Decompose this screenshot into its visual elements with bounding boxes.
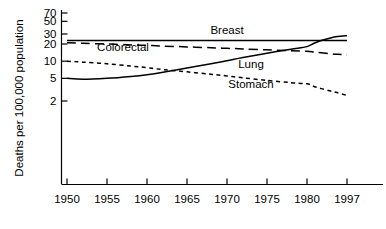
x-axis-ticks: 19501955196019651970197519801997 — [54, 179, 360, 206]
series-label-lung: Lung — [238, 58, 264, 70]
series-label-breast: Breast — [210, 24, 244, 36]
y-tick-label: 30 — [44, 28, 57, 40]
y-tick-label: 2 — [50, 95, 56, 107]
x-tick-label: 1975 — [254, 193, 280, 205]
x-tick-label: 1970 — [214, 193, 240, 205]
x-tick-label: 1955 — [94, 193, 120, 205]
series-label-colorectal: Colorectal — [97, 41, 149, 53]
axes — [62, 10, 384, 185]
x-tick-label: 1997 — [334, 193, 360, 205]
series-label-stomach: Stomach — [228, 78, 273, 90]
plot-area: 251020305070 195019551960196519701975198… — [0, 0, 386, 229]
x-tick-label: 1960 — [134, 193, 160, 205]
y-axis-ticks: 251020305070 — [44, 7, 68, 107]
x-tick-label: 1950 — [54, 193, 80, 205]
line-chart: Deaths per 100,000 population 2510203050… — [0, 0, 386, 229]
y-tick-label: 10 — [44, 55, 57, 67]
x-tick-label: 1980 — [294, 193, 320, 205]
x-tick-label: 1965 — [174, 193, 200, 205]
y-tick-label: 70 — [44, 7, 57, 19]
y-tick-label: 5 — [50, 72, 56, 84]
